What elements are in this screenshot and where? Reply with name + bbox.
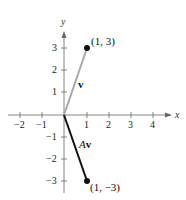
point-marker bbox=[84, 45, 90, 51]
x-tick-label: −1 bbox=[36, 119, 47, 130]
y-tick-label: 3 bbox=[52, 42, 57, 53]
y-tick-label: 2 bbox=[52, 64, 57, 75]
vector-diagram: x −2 −1 1 2 3 4 y 3 2 1 −1 − bbox=[0, 0, 186, 200]
y-axis: y 3 2 1 −1 −2 −3 bbox=[46, 16, 67, 193]
x-axis-label: x bbox=[174, 109, 180, 120]
x-tick-label: 4 bbox=[150, 119, 155, 130]
vector-label-av-vector: v bbox=[86, 138, 92, 150]
x-tick-label: 2 bbox=[106, 119, 111, 130]
y-tick-label: 1 bbox=[52, 86, 57, 97]
point-label-av: (1, −3) bbox=[90, 181, 120, 194]
point-label-v: (1, 3) bbox=[91, 35, 115, 48]
y-axis-label: y bbox=[60, 16, 66, 27]
y-tick-label: −1 bbox=[46, 131, 57, 142]
x-tick-label: −2 bbox=[14, 119, 25, 130]
x-axis: x −2 −1 1 2 3 4 bbox=[8, 109, 180, 130]
vector-label-v: v bbox=[78, 78, 84, 90]
y-tick-label: −3 bbox=[46, 175, 57, 186]
y-tick-label: −2 bbox=[46, 153, 57, 164]
vector-v: (1, 3) v bbox=[64, 35, 115, 115]
vector-label-av: Av bbox=[78, 138, 92, 150]
y-axis-arrow-icon bbox=[62, 31, 67, 38]
x-axis-arrow-icon bbox=[165, 113, 172, 118]
x-tick-label: 3 bbox=[128, 119, 133, 130]
vector-av: (1, −3) Av bbox=[64, 115, 120, 194]
x-tick-label: 1 bbox=[84, 119, 89, 130]
